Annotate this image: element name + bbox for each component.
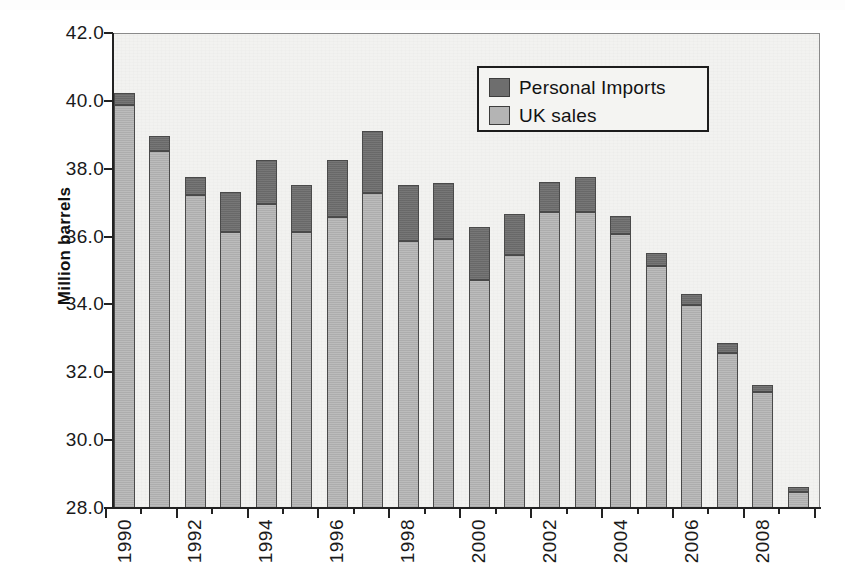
x-tick [176,508,178,518]
y-tick [104,439,113,441]
legend-item-uk-sales: UK sales [489,101,699,129]
bar-segment-personal-imports [185,177,206,196]
x-tick [388,508,390,518]
bar-segment-uk-sales [752,392,773,509]
x-tick-label-1990: 1990 [113,519,134,567]
x-tick [814,508,816,518]
y-tick-label: 30.0 [46,430,104,449]
bar-segment-personal-imports [327,160,348,218]
bar-2004 [610,216,631,509]
bar-segment-personal-imports [610,216,631,235]
bar-segment-uk-sales [398,241,419,509]
bar-segment-uk-sales [362,193,383,509]
x-tick-label-1998: 1998 [397,519,418,567]
x-axis-line [112,507,821,509]
bar-segment-personal-imports [575,177,596,213]
bar-segment-uk-sales [717,353,738,509]
bar-segment-personal-imports [256,160,277,204]
x-tick [140,508,142,514]
bar-segment-personal-imports [681,294,702,306]
x-tick [282,508,284,514]
x-tick [672,508,674,518]
x-tick [637,508,639,514]
bar-segment-personal-imports [504,214,525,255]
y-tick-label: 42.0 [46,23,104,42]
legend-label-personal-imports: Personal Imports [519,78,666,97]
y-tick [104,168,113,170]
y-axis-line [112,33,114,509]
bar-1992 [185,177,206,510]
x-tick-label-2006: 2006 [680,519,701,567]
bar-2007 [717,343,738,509]
scan-artifact-top [0,0,845,10]
bar-segment-personal-imports [469,227,490,280]
x-tick-label-1996: 1996 [326,519,347,567]
bar-2002 [539,182,560,509]
bar-2005 [646,253,667,509]
x-tick-label-2000: 2000 [468,519,489,567]
bar-segment-personal-imports [149,136,170,151]
plot-area [112,33,820,508]
y-tick [104,32,113,34]
x-tick-label-2002: 2002 [538,519,559,567]
bar-1993 [220,192,241,509]
x-tick [247,508,249,518]
bar-1995 [291,185,312,509]
bar-segment-uk-sales [185,195,206,509]
bar-segment-uk-sales [220,232,241,509]
x-tick-label-1992: 1992 [184,519,205,567]
x-tick [566,508,568,514]
y-tick [104,236,113,238]
x-tick-label-2008: 2008 [751,519,772,567]
bar-1999 [433,183,454,509]
bar-segment-personal-imports [362,131,383,194]
bar-2003 [575,177,596,510]
legend-swatch-uk-sales [489,106,510,125]
bar-segment-uk-sales [291,232,312,509]
legend-item-personal-imports: Personal Imports [489,73,699,101]
x-tick [530,508,532,518]
chart-legend: Personal Imports UK sales [477,66,709,132]
y-axis-title: Million barrels [55,151,75,341]
bar-segment-uk-sales [469,280,490,509]
y-tick [104,371,113,373]
x-tick [211,508,213,514]
bar-segment-personal-imports [433,183,454,239]
bar-segment-uk-sales [433,239,454,509]
bar-2008 [752,385,773,509]
y-tick-label: 32.0 [46,362,104,381]
bar-segment-uk-sales [327,217,348,509]
bar-segment-personal-imports [291,185,312,233]
bar-segment-personal-imports [220,192,241,233]
bar-1997 [362,131,383,509]
bar-segment-uk-sales [256,204,277,509]
y-tick [104,303,113,305]
bar-segment-personal-imports [114,93,135,105]
x-tick [743,508,745,518]
bar-segment-uk-sales [575,212,596,509]
y-tick-label: 40.0 [46,91,104,110]
x-tick [105,508,107,518]
bar-1991 [149,136,170,509]
bar-segment-uk-sales [149,151,170,509]
bar-segment-personal-imports [539,182,560,213]
bar-2001 [504,214,525,509]
legend-swatch-personal-imports [489,78,510,97]
bar-segment-personal-imports [646,253,667,267]
bar-segment-uk-sales [539,212,560,509]
x-tick [459,508,461,518]
y-tick [104,100,113,102]
x-tick [601,508,603,518]
x-tick-label-1994: 1994 [255,519,276,567]
bar-segment-uk-sales [504,255,525,509]
bar-segment-uk-sales [646,266,667,509]
x-tick [495,508,497,514]
bar-2009 [788,487,809,509]
x-tick [317,508,319,518]
y-axis-title-holder: Million barrels [22,0,23,561]
x-tick [353,508,355,514]
bar-2000 [469,227,490,509]
bar-segment-uk-sales [681,305,702,509]
bar-segment-uk-sales [114,105,135,509]
